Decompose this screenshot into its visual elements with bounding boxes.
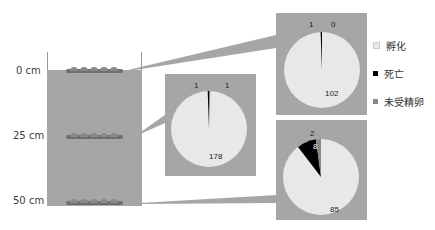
- pie-label-dead: 1: [309, 20, 313, 29]
- legend-label-unfertilized: 未受精卵: [384, 94, 424, 109]
- legend-swatch-dead: [373, 71, 378, 76]
- pie-label-unfertilized: 0: [331, 20, 335, 29]
- pie-label-unfertilized: 1: [225, 81, 229, 90]
- pie-box-25cm: 1 1 178: [165, 74, 256, 176]
- legend-label-dead: 死亡: [384, 66, 404, 81]
- legend-label-hatched: 孵化: [386, 38, 406, 53]
- connector-top: [128, 35, 276, 71]
- pie-box-50cm: 2 8 85: [276, 120, 367, 220]
- egg-layer-50cm: [66, 201, 123, 205]
- pie-label-hatched: 102: [325, 89, 338, 98]
- pie-box-0cm: 1 0 102: [276, 13, 367, 115]
- legend-swatch-hatched: [373, 42, 380, 49]
- connector-bottom: [140, 195, 276, 204]
- egg-layer-25cm: [66, 135, 123, 139]
- tank-wall-left: [47, 52, 48, 70]
- pie-label-hatched: 85: [330, 205, 339, 214]
- pie-chart-0cm: [276, 13, 367, 115]
- pie-chart-50cm: [276, 120, 367, 220]
- legend-item-unfertilized: 未受精卵: [373, 94, 424, 109]
- depth-label-0: 0 cm: [16, 65, 41, 76]
- depth-label-25: 25 cm: [13, 130, 44, 141]
- connector-middle: [138, 115, 165, 135]
- egg-layer-0cm: [66, 69, 123, 73]
- tank-wall-right: [141, 52, 142, 70]
- pie-label-hatched: 178: [209, 152, 222, 161]
- legend-item-dead: 死亡: [373, 66, 424, 81]
- legend-item-hatched: 孵化: [373, 38, 424, 53]
- legend: 孵化 死亡 未受精卵: [373, 38, 424, 109]
- pie-label-dead: 8: [313, 142, 317, 151]
- legend-swatch-unfertilized: [373, 99, 378, 104]
- depth-label-50: 50 cm: [13, 195, 44, 206]
- pie-label-dead: 1: [194, 81, 198, 90]
- pie-label-unfertilized: 2: [310, 129, 314, 138]
